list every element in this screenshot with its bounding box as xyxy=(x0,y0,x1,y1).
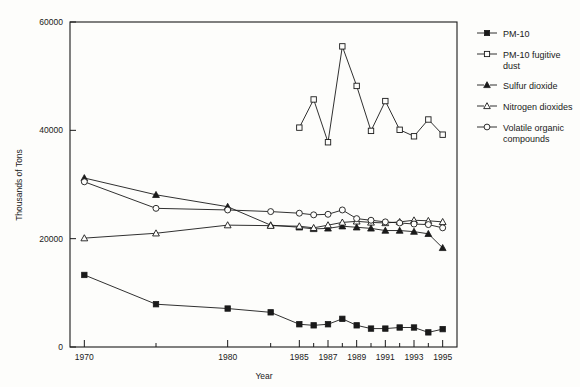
data-point-marker xyxy=(484,124,490,130)
chart-legend: PM-10PM-10 fugitivedustSulfur dioxideNit… xyxy=(477,29,573,144)
data-point-marker xyxy=(411,134,416,139)
data-point-marker xyxy=(440,225,446,231)
legend-item-volatile-organic-compounds[interactable]: Volatile organiccompounds xyxy=(477,123,565,144)
data-point-marker xyxy=(397,325,402,330)
legend-item-pm-10[interactable]: PM-10 xyxy=(477,29,530,39)
series-nitrogen-dioxides xyxy=(81,217,446,241)
x-tick-label: 1985 xyxy=(290,352,309,362)
legend-label: Nitrogen dioxides xyxy=(503,102,573,112)
series-layer xyxy=(81,44,446,335)
data-point-marker xyxy=(153,302,158,307)
data-point-marker xyxy=(297,322,302,327)
data-point-marker xyxy=(296,210,302,216)
data-point-marker xyxy=(382,219,388,225)
data-point-marker xyxy=(297,125,302,130)
data-point-marker xyxy=(153,205,159,211)
data-point-marker xyxy=(425,222,431,228)
series-line xyxy=(84,178,442,248)
series-line xyxy=(84,275,442,332)
legend-item-sulfur-dioxide[interactable]: Sulfur dioxide xyxy=(477,81,558,91)
series-pm-10-fugitive-dust xyxy=(297,44,446,145)
data-point-marker xyxy=(440,132,445,137)
plot-frame xyxy=(70,22,457,347)
data-point-marker xyxy=(484,103,491,109)
data-point-marker xyxy=(354,323,359,328)
legend-label: PM-10 fugitive xyxy=(503,50,561,60)
data-point-marker xyxy=(484,30,489,35)
data-point-marker xyxy=(383,98,388,103)
y-tick-label: 40000 xyxy=(39,125,63,135)
x-tick-label: 1987 xyxy=(319,352,338,362)
chart-figure: 0200004000060000 19701980198519871989199… xyxy=(0,0,580,387)
y-tick-label: 60000 xyxy=(39,17,63,27)
legend-label: compounds xyxy=(503,134,550,144)
y-tick-label: 0 xyxy=(58,342,63,352)
series-pm-10 xyxy=(82,272,446,335)
data-point-marker xyxy=(440,326,445,331)
x-tick-label: 1989 xyxy=(347,352,366,362)
x-tick-label: 1980 xyxy=(218,352,237,362)
series-sulfur-dioxide xyxy=(81,175,446,251)
legend-label: PM-10 xyxy=(503,29,530,39)
series-line xyxy=(84,182,442,228)
legend-item-nitrogen-dioxides[interactable]: Nitrogen dioxides xyxy=(477,102,573,112)
y-axis-title: Thousands of Tons xyxy=(14,149,24,221)
y-tick-label: 20000 xyxy=(39,234,63,244)
data-point-marker xyxy=(325,211,331,217)
series-line xyxy=(84,220,442,238)
data-point-marker xyxy=(339,207,345,213)
x-tick-label: 1970 xyxy=(75,352,94,362)
data-point-marker xyxy=(325,140,330,145)
x-tick-label: 1995 xyxy=(433,352,452,362)
data-point-marker xyxy=(368,128,373,133)
data-point-marker xyxy=(383,326,388,331)
data-point-marker xyxy=(397,127,402,132)
data-point-marker xyxy=(354,83,359,88)
data-point-marker xyxy=(268,310,273,315)
series-volatile-organic-compounds xyxy=(81,179,445,231)
data-point-marker xyxy=(225,207,231,213)
x-tick-label: 1993 xyxy=(405,352,424,362)
data-point-marker xyxy=(340,316,345,321)
data-point-marker xyxy=(225,306,230,311)
data-point-marker xyxy=(368,217,374,223)
x-tick-label: 1991 xyxy=(376,352,395,362)
data-point-marker xyxy=(340,44,345,49)
data-point-marker xyxy=(354,216,360,222)
x-axis-ticks: 19701980198519871989199119931995 xyxy=(75,340,453,362)
data-point-marker xyxy=(426,330,431,335)
data-point-marker xyxy=(311,323,316,328)
line-chart: 0200004000060000 19701980198519871989199… xyxy=(0,0,580,387)
data-point-marker xyxy=(81,179,87,185)
data-point-marker xyxy=(411,325,416,330)
legend-item-pm-10-fugitive-dust[interactable]: PM-10 fugitivedust xyxy=(477,50,561,71)
data-point-marker xyxy=(311,97,316,102)
data-point-marker xyxy=(311,212,317,218)
data-point-marker xyxy=(325,322,330,327)
data-point-marker xyxy=(397,220,403,226)
legend-label: dust xyxy=(503,61,521,71)
data-point-marker xyxy=(484,51,489,56)
legend-label: Volatile organic xyxy=(503,123,565,133)
data-point-marker xyxy=(82,272,87,277)
data-point-marker xyxy=(268,209,274,215)
data-point-marker xyxy=(411,221,417,227)
x-axis-title: Year xyxy=(255,371,272,381)
legend-label: Sulfur dioxide xyxy=(503,81,558,91)
data-point-marker xyxy=(426,117,431,122)
data-point-marker xyxy=(368,326,373,331)
data-point-marker xyxy=(484,82,491,88)
